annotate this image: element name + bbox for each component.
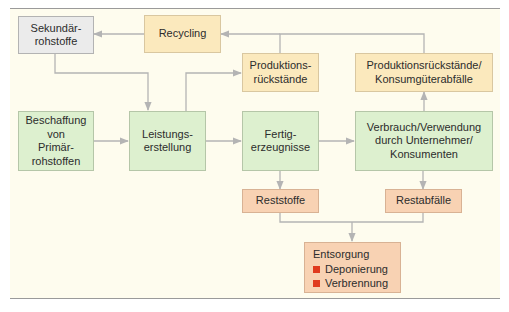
arrow-sekundaer-leistung	[55, 53, 148, 110]
entsorgung-item-deponierung: Deponierung	[313, 263, 400, 277]
node-reststoffe: Reststoffe	[242, 189, 319, 213]
node-label: Produktions- rückstände	[250, 59, 312, 86]
node-label: Leistungs- erstellung	[142, 128, 193, 155]
red-square-bullet-icon	[313, 280, 320, 287]
entsorgung-title: Entsorgung	[313, 248, 400, 262]
node-label: Recycling	[159, 27, 207, 41]
node-label: Beschaffung von Primär- rohstoffen	[26, 114, 87, 168]
node-entsorgung: Entsorgung Deponierung Verbrennung	[304, 242, 401, 293]
node-label: Produktionsrückstände/ Konsumgüterabfäll…	[367, 59, 482, 86]
node-beschaffung-primaerrohstoffe: Beschaffung von Primär- rohstoffen	[18, 111, 94, 171]
red-square-bullet-icon	[313, 266, 320, 273]
node-label: Fertig- erzeugnisse	[251, 128, 310, 155]
node-produktionsrueckstaende: Produktions- rückstände	[242, 53, 319, 92]
node-label: Restabfälle	[396, 194, 451, 208]
line-top-collector	[280, 34, 424, 53]
entsorgung-item-verbrennung: Verbrennung	[313, 277, 400, 291]
node-konsumgueterabfaelle: Produktionsrückstände/ Konsumgüterabfäll…	[355, 53, 493, 92]
node-leistungserstellung: Leistungs- erstellung	[129, 111, 206, 171]
entsorgung-item-label: Deponierung	[325, 263, 388, 277]
node-restabfaelle: Restabfälle	[385, 189, 462, 213]
node-label: Verbrauch/Verwendung durch Unternehmer/ …	[367, 121, 481, 162]
line-bottom-collector	[280, 212, 423, 222]
arrow-leistung-produktion	[186, 73, 241, 111]
entsorgung-item-label: Verbrennung	[325, 277, 388, 291]
node-fertigerzeugnisse: Fertig- erzeugnisse	[242, 111, 319, 171]
node-label: Sekundär- rohstoffe	[31, 22, 82, 49]
node-recycling: Recycling	[144, 15, 221, 53]
node-sekundaerrohstoffe: Sekundär- rohstoffe	[18, 16, 94, 54]
node-label: Reststoffe	[256, 194, 305, 208]
node-verbrauch-verwendung: Verbrauch/Verwendung durch Unternehmer/ …	[355, 111, 493, 171]
